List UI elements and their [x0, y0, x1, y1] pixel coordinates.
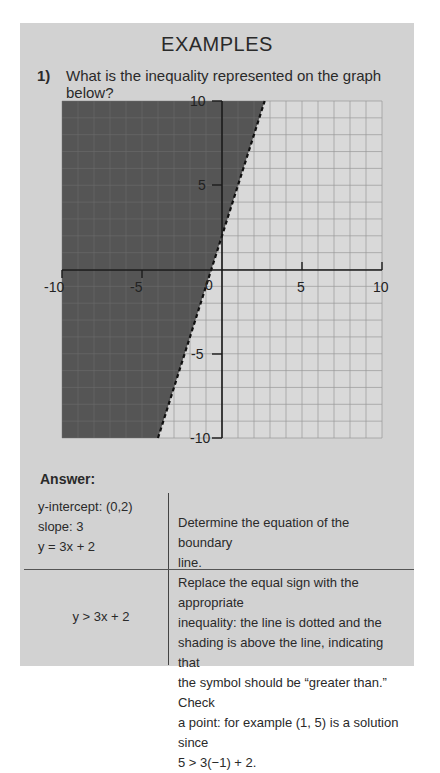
y-tick-label: 5: [198, 177, 206, 193]
y-tick-label: -10: [190, 430, 210, 446]
x-tick-label: 5: [297, 279, 305, 295]
y-tick-label: 10: [190, 93, 206, 109]
explanation-line: 5 > 3(−1) + 2.: [178, 753, 408, 773]
x-tick-label: 0: [205, 277, 213, 293]
explanation-line: a point: for example (1, 5) is a solutio…: [178, 713, 408, 753]
y-tick-label: -5: [191, 346, 204, 362]
x-tick-label: 10: [373, 279, 389, 295]
x-tick-label: -5: [130, 279, 143, 295]
x-tick-label: -10: [44, 279, 64, 295]
